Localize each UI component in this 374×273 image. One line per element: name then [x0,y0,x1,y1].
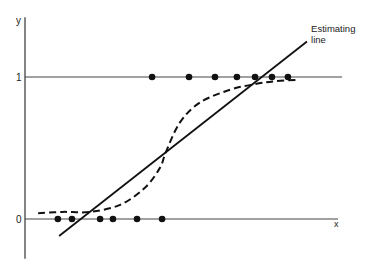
data-point [186,74,193,81]
data-point [110,216,117,223]
data-point [55,216,62,223]
annotation-estimating-line: line [311,34,326,45]
y-tick-label-1: 1 [16,72,22,83]
data-point [252,74,259,81]
estimating-line [59,42,307,237]
labels-layer: 01yxEstimatingline [16,15,355,229]
x-axis-label: x [334,219,339,229]
chart-container: 01yxEstimatingline [0,0,374,273]
data-point [234,74,241,81]
data-point [134,216,141,223]
logistic-vs-linear-chart: 01yxEstimatingline [0,0,374,273]
annotation-estimating-line: Estimating [311,23,355,34]
data-point [212,74,219,81]
y-tick-label-0: 0 [16,214,22,225]
data-point [269,74,276,81]
data-point [149,74,156,81]
data-point [159,216,166,223]
data-point [97,216,104,223]
y-axis-label: y [16,15,21,26]
series-layer [38,42,307,237]
logistic-curve-dashed [38,80,297,213]
data-point [69,216,76,223]
